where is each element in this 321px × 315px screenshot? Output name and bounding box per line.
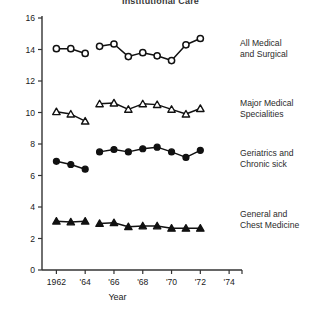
marker-filled-circle [97,149,103,155]
marker-filled-circle [125,149,131,155]
marker-open-circle [53,46,59,52]
series-geriatrics-and-chronic-sick [53,144,203,172]
marker-open-triangle [168,106,175,113]
marker-open-circle [125,53,131,59]
marker-open-circle [168,57,174,63]
marker-filled-triangle [96,220,103,227]
x-tick-label: 1962 [47,277,66,287]
x-tick-label: '66 [108,277,119,287]
legend-label-major-medical-specialities: Major Medical Specialities [240,98,294,120]
legend-label-geriatrics-and-chronic-sick: Geriatrics and Chronic sick [240,148,294,170]
y-tick-label: 6 [30,171,35,181]
x-tick-label: '64 [80,277,91,287]
marker-filled-triangle [197,225,204,232]
marker-filled-triangle [67,218,74,225]
x-tick-label: '74 [224,277,235,287]
y-tick-label: 8 [30,139,35,149]
marker-filled-circle [53,158,59,164]
x-tick-label: '68 [137,277,148,287]
marker-filled-triangle [139,222,146,229]
marker-open-circle [183,42,189,48]
marker-filled-triangle [81,218,88,225]
x-tick-label: '72 [195,277,206,287]
y-tick-label: 14 [25,45,35,55]
marker-open-triangle [197,105,204,112]
marker-open-circle [68,46,74,52]
marker-open-triangle [153,101,160,108]
legend-label-general-and-chest-medicine: General and Chest Medicine [240,209,299,231]
x-tick-label: '70 [166,277,177,287]
marker-filled-circle [183,154,189,160]
marker-open-triangle [67,110,74,117]
y-tick-label: 16 [25,13,35,23]
y-tick-label: 12 [25,76,35,86]
marker-open-circle [140,50,146,56]
y-tick-label: 0 [30,265,35,275]
x-axis-title: Year [0,292,235,302]
marker-filled-triangle [182,225,189,232]
series-major-medical-specialities [53,99,204,124]
series-all-medical-and-surgical [53,35,203,63]
marker-open-circle [82,50,88,56]
marker-open-triangle [110,99,117,106]
marker-open-triangle [81,118,88,125]
marker-filled-triangle [153,222,160,229]
marker-filled-triangle [110,219,117,226]
legend-label-all-medical-and-surgical: All Medical and Surgical [240,38,288,60]
marker-filled-circle [154,144,160,150]
marker-filled-circle [68,161,74,167]
y-tick-label: 4 [30,202,35,212]
marker-filled-circle [140,146,146,152]
chart-container: Institutional Care 02468101214161962'64'… [0,0,321,315]
series-general-and-chest-medicine [53,218,204,232]
marker-filled-triangle [53,218,60,225]
y-tick-label: 10 [25,108,35,118]
marker-open-circle [111,41,117,47]
marker-filled-circle [169,149,175,155]
marker-open-circle [96,43,102,49]
series-layer [53,35,204,231]
marker-filled-triangle [125,223,132,230]
marker-open-triangle [139,100,146,107]
marker-open-triangle [53,108,60,115]
marker-open-triangle [125,106,132,113]
marker-filled-circle [197,147,203,153]
marker-open-triangle [96,100,103,107]
marker-filled-triangle [168,225,175,232]
marker-open-circle [154,53,160,59]
marker-filled-circle [82,166,88,172]
marker-open-circle [197,35,203,41]
marker-open-triangle [182,110,189,117]
y-tick-label: 2 [30,234,35,244]
marker-filled-circle [111,147,117,153]
